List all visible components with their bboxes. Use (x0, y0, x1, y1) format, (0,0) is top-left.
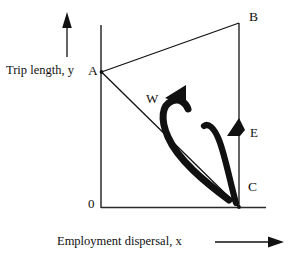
figure-canvas: Trip length, y Employment dispersal, x 0… (0, 0, 304, 264)
y-axis-arrow-icon (62, 12, 72, 57)
diagram-svg (0, 0, 304, 264)
trajectory-label-W: W (146, 92, 158, 105)
point-label-A: A (88, 64, 98, 78)
trajectory-W (163, 100, 229, 200)
trajectory-label-E: E (250, 126, 258, 139)
x-axis-label: Employment dispersal, x (57, 235, 182, 248)
x-axis-arrow-icon (215, 237, 284, 248)
edge-A-B (102, 23, 240, 72)
y-axis-label: Trip length, y (6, 64, 74, 77)
node-C-dot (237, 205, 241, 209)
point-label-B: B (249, 10, 258, 24)
origin-label: 0 (88, 197, 95, 210)
point-label-C: C (248, 180, 257, 194)
trajectory-E-arrowhead-icon (227, 118, 245, 136)
node-A-dot (100, 70, 104, 74)
